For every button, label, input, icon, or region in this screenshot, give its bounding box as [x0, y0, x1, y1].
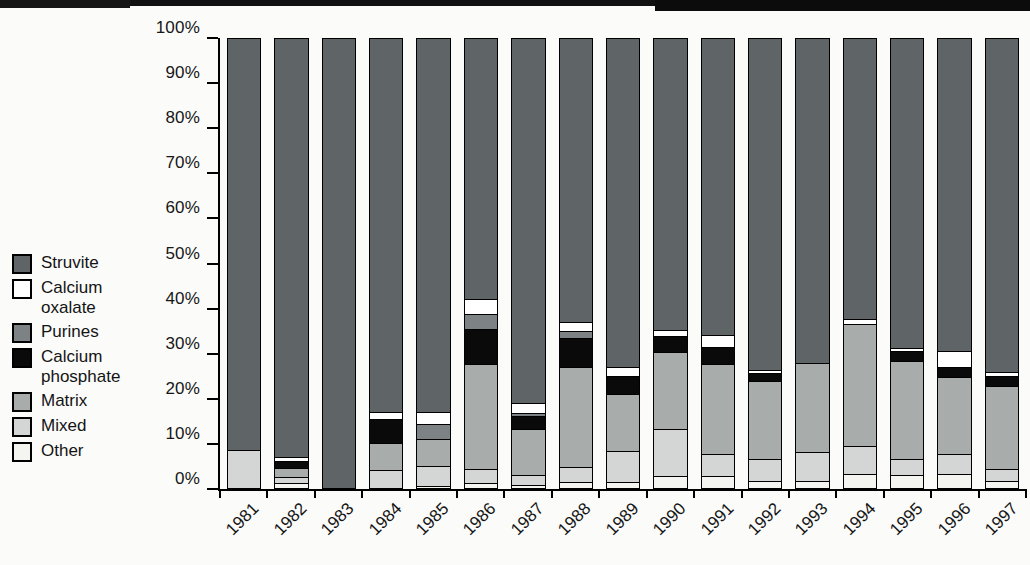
segment-calcium-phosphate-1990 [654, 336, 686, 352]
segment-mixed-1993 [796, 452, 828, 481]
y-tick-label-40%: 40% [136, 289, 200, 309]
legend-label: Matrix [41, 391, 145, 411]
y-tick-0% [207, 488, 218, 490]
bar-1992 [748, 38, 782, 489]
segment-other-1997 [986, 481, 1018, 488]
x-label-1997: 1997 [981, 499, 1022, 540]
y-tick-label-20%: 20% [136, 379, 200, 399]
bar-1981 [227, 38, 261, 489]
segment-calcium-phosphate-1986 [465, 329, 497, 364]
y-tick-label-50%: 50% [136, 244, 200, 264]
segment-calcium-oxalate-1989 [607, 367, 639, 376]
segment-other-1994 [844, 474, 876, 488]
segment-mixed-1991 [702, 454, 734, 476]
segment-matrix-1986 [465, 364, 497, 469]
segment-other-1990 [654, 476, 686, 488]
segment-calcium-phosphate-1996 [938, 367, 970, 377]
segment-other-1985 [417, 486, 449, 488]
x-label-1996: 1996 [934, 499, 975, 540]
x-tick-11 [741, 489, 743, 498]
x-tick-1 [266, 489, 268, 498]
x-tick-16 [978, 489, 980, 498]
segment-calcium-oxalate-1987 [512, 403, 544, 413]
x-label-1993: 1993 [792, 499, 833, 540]
segment-mixed-1990 [654, 429, 686, 476]
legend-label: Mixed [41, 416, 145, 436]
segment-struvite-1985 [417, 39, 449, 412]
segment-matrix-1996 [938, 377, 970, 454]
bar-1996 [937, 38, 971, 489]
y-tick-label-100%: 100% [136, 18, 200, 38]
segment-struvite-1988 [560, 39, 592, 322]
y-tick-20% [207, 398, 218, 400]
x-label-1984: 1984 [365, 499, 406, 540]
bar-1993 [795, 38, 829, 489]
segment-struvite-1987 [512, 39, 544, 403]
segment-struvite-1981 [228, 39, 260, 450]
legend-swatch-other [12, 442, 32, 462]
scan-edge-artifact-left [0, 0, 130, 8]
x-label-1995: 1995 [886, 499, 927, 540]
x-label-1988: 1988 [555, 499, 596, 540]
x-tick-8 [598, 489, 600, 498]
x-tick-0 [219, 489, 221, 498]
segment-matrix-1989 [607, 394, 639, 451]
segment-calcium-oxalate-1984 [370, 412, 402, 420]
segment-struvite-1997 [986, 39, 1018, 372]
x-label-1990: 1990 [649, 499, 690, 540]
segment-struvite-1996 [938, 39, 970, 351]
y-tick-40% [207, 308, 218, 310]
segment-mixed-1982 [275, 477, 307, 484]
segment-calcium-phosphate-1989 [607, 376, 639, 394]
y-tick-10% [207, 443, 218, 445]
segment-matrix-1995 [891, 361, 923, 459]
segment-calcium-phosphate-1984 [370, 419, 402, 443]
segment-matrix-1985 [417, 439, 449, 466]
y-tick-label-90%: 90% [136, 63, 200, 83]
x-label-1981: 1981 [223, 499, 264, 540]
segment-mixed-1996 [938, 454, 970, 474]
segment-mixed-1992 [749, 459, 781, 481]
legend-swatch-calcium-phosphate [12, 348, 32, 368]
bar-1991 [701, 38, 735, 489]
segment-mixed-1997 [986, 469, 1018, 481]
segment-purines-1986 [465, 314, 497, 329]
x-tick-14 [883, 489, 885, 498]
x-tick-12 [788, 489, 790, 498]
y-tick-60% [207, 217, 218, 219]
segment-matrix-1984 [370, 443, 402, 470]
legend-swatch-struvite [12, 254, 32, 274]
segment-calcium-phosphate-1992 [749, 373, 781, 381]
segment-matrix-1993 [796, 363, 828, 452]
segment-calcium-oxalate-1986 [465, 299, 497, 314]
bar-1984 [369, 38, 403, 489]
bar-1988 [559, 38, 593, 489]
x-tick-13 [835, 489, 837, 498]
segment-matrix-1997 [986, 386, 1018, 469]
segment-calcium-phosphate-1987 [512, 416, 544, 429]
segment-other-1986 [465, 483, 497, 487]
segment-matrix-1990 [654, 352, 686, 429]
legend-swatch-calcium-oxalate [12, 279, 32, 299]
segment-calcium-phosphate-1997 [986, 376, 1018, 386]
segment-calcium-phosphate-1982 [275, 461, 307, 468]
segment-calcium-phosphate-1995 [891, 351, 923, 361]
y-tick-90% [207, 82, 218, 84]
x-tick-3 [361, 489, 363, 498]
y-tick-label-10%: 10% [136, 424, 200, 444]
bar-1982 [274, 38, 308, 489]
segment-struvite-1982 [275, 39, 307, 457]
segment-struvite-1984 [370, 39, 402, 412]
legend-label: Other [41, 441, 145, 461]
x-tick-9 [646, 489, 648, 498]
stacked-bar-chart-figure: StruviteCalcium oxalatePurinesCalcium ph… [0, 0, 1030, 565]
x-tick-17 [1025, 489, 1027, 498]
segment-other-1996 [938, 474, 970, 488]
bar-1989 [606, 38, 640, 489]
segment-other-1989 [607, 482, 639, 488]
segment-other-1991 [702, 476, 734, 488]
bars-container [220, 38, 1026, 489]
y-tick-label-80%: 80% [136, 108, 200, 128]
segment-struvite-1992 [749, 39, 781, 370]
segment-other-1988 [560, 482, 592, 488]
